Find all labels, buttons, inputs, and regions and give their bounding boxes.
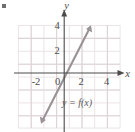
x-tick-label-4: 4 — [104, 76, 110, 87]
function-line — [40, 25, 92, 124]
y-axis-label: y — [63, 0, 69, 11]
y-tick-label-2: 2 — [54, 45, 59, 56]
corner-mark — [2, 4, 6, 8]
y-axis-arrowhead — [61, 10, 67, 17]
coordinate-plane-graphic: x y -2 0 2 4 4 2 y = f(x) — [0, 0, 135, 132]
function-label: y = f(x) — [61, 97, 93, 109]
x-axis-label: x — [124, 68, 130, 79]
x-tick-label-2: 2 — [78, 76, 83, 87]
x-axis-arrowhead — [118, 70, 125, 76]
figure-container: x y -2 0 2 4 4 2 y = f(x) — [0, 0, 135, 132]
y-tick-label-4: 4 — [54, 20, 60, 31]
x-tick-label-minus2: -2 — [32, 76, 41, 87]
x-tick-label-0: 0 — [55, 76, 60, 87]
